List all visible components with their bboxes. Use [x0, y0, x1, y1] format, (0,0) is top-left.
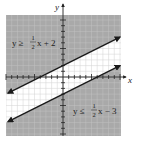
- svg-text:y ≤: y ≤: [73, 106, 85, 116]
- svg-text:2: 2: [31, 43, 34, 50]
- svg-text:x + 2: x + 2: [37, 38, 56, 48]
- svg-text:1: 1: [31, 34, 34, 41]
- inequality-graph: x y y ≥ 1 2 x + 2 y ≤ 1 2 x − 3: [0, 0, 143, 141]
- y-axis-label: y: [54, 2, 59, 12]
- svg-text:1: 1: [92, 102, 95, 109]
- svg-text:y ≥: y ≥: [12, 38, 24, 48]
- svg-text:2: 2: [92, 111, 95, 118]
- x-axis-label: x: [127, 75, 132, 85]
- svg-text:x − 3: x − 3: [98, 106, 117, 116]
